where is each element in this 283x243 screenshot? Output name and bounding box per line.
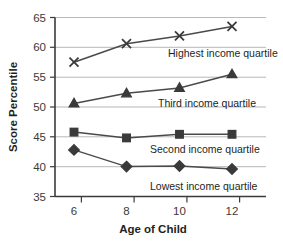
line-chart: 65 60 55 50 45 40 35 6 8 10 12 Age of Ch… bbox=[0, 0, 283, 243]
ytick-label-35: 35 bbox=[33, 191, 46, 203]
series-highest-income-quartile bbox=[70, 22, 237, 67]
ytick-label-65: 65 bbox=[33, 12, 46, 24]
xtick-label-8: 8 bbox=[123, 205, 129, 217]
x-axis-title: Age of Child bbox=[119, 223, 187, 235]
xtick-label-6: 6 bbox=[71, 205, 77, 217]
y-axis-title: Score Percentile bbox=[7, 62, 19, 152]
annotation-third-income-quartile: Third income quartile bbox=[158, 97, 256, 109]
y-axis-tick-labels: 65 60 55 50 45 40 35 bbox=[33, 12, 46, 203]
annotation-second-income-quartile: Second income quartile bbox=[150, 143, 260, 155]
xtick-label-12: 12 bbox=[226, 205, 239, 217]
ytick-label-60: 60 bbox=[33, 41, 46, 53]
ytick-label-45: 45 bbox=[33, 131, 46, 143]
series-annotations: Highest income quartile Third income qua… bbox=[150, 47, 278, 192]
chart-container: 65 60 55 50 45 40 35 6 8 10 12 Age of Ch… bbox=[0, 0, 283, 243]
ytick-label-50: 50 bbox=[33, 101, 46, 113]
ytick-label-55: 55 bbox=[33, 71, 46, 83]
ytick-label-40: 40 bbox=[33, 161, 46, 173]
annotation-lowest-income-quartile: Lowest income quartile bbox=[150, 180, 258, 192]
xtick-label-10: 10 bbox=[173, 205, 186, 217]
annotation-highest-income-quartile: Highest income quartile bbox=[168, 47, 278, 59]
series-second-income-quartile bbox=[70, 128, 236, 141]
x-axis-ticks bbox=[81, 197, 239, 203]
x-axis-tick-labels: 6 8 10 12 bbox=[71, 205, 239, 217]
marker-x-group-highest bbox=[70, 22, 237, 67]
